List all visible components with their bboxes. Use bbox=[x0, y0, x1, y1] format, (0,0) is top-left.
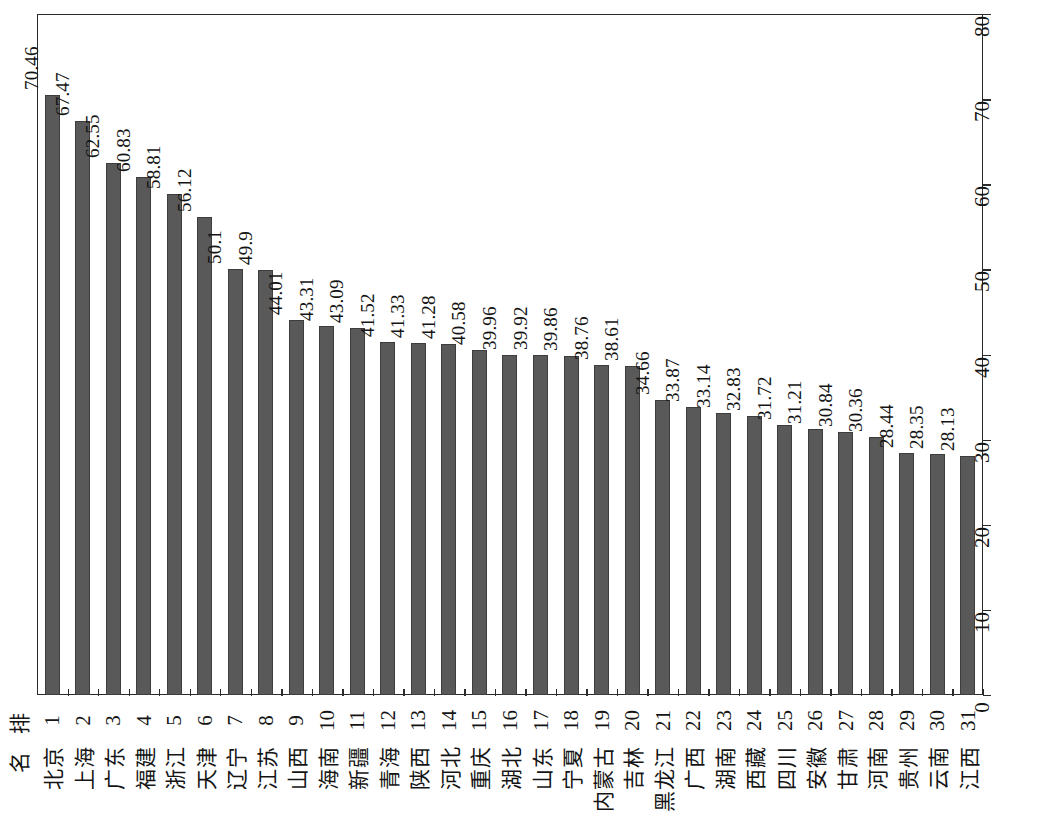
category-name-label: 广西 bbox=[678, 746, 708, 790]
bar[interactable] bbox=[655, 400, 670, 695]
bar[interactable] bbox=[686, 407, 701, 695]
bar-group: 32.83 bbox=[739, 14, 770, 695]
category-tick-group: 13陕西 bbox=[403, 700, 434, 814]
bar[interactable] bbox=[899, 453, 914, 695]
category-name-label: 浙江 bbox=[159, 746, 189, 790]
category-name-label: 甘肃 bbox=[831, 746, 861, 790]
bar-value-label: 60.83 bbox=[113, 128, 135, 172]
category-name-label: 贵州 bbox=[892, 746, 922, 790]
bar-group: 40.58 bbox=[464, 14, 495, 695]
category-rank-label: 12 bbox=[375, 710, 400, 731]
category-name-label: 青海 bbox=[373, 746, 403, 790]
bar[interactable] bbox=[716, 413, 731, 695]
bar-group: 70.46 bbox=[37, 14, 68, 695]
bar[interactable] bbox=[136, 177, 151, 695]
bar-value-label: 34.66 bbox=[632, 351, 654, 395]
bar[interactable] bbox=[594, 365, 609, 695]
category-rank-label: 16 bbox=[497, 710, 522, 731]
category-tick-group: 6天津 bbox=[190, 700, 221, 814]
bar-value-label: 58.81 bbox=[143, 146, 165, 190]
bar[interactable] bbox=[289, 320, 304, 695]
category-rank-label: 19 bbox=[589, 710, 614, 731]
bar[interactable] bbox=[106, 163, 121, 695]
bar[interactable] bbox=[167, 194, 182, 695]
category-tick-group: 22广西 bbox=[678, 700, 709, 814]
axis-header-name-char: 名 bbox=[3, 752, 33, 773]
bar[interactable] bbox=[380, 342, 395, 695]
bar[interactable] bbox=[869, 437, 884, 695]
category-rank-label: 29 bbox=[894, 710, 919, 731]
category-tick-group: 12青海 bbox=[373, 700, 404, 814]
bar-value-label: 40.58 bbox=[448, 301, 470, 345]
bar[interactable] bbox=[350, 328, 365, 695]
bar-group: 56.12 bbox=[190, 14, 221, 695]
chart-figure: 70.4667.4762.5560.8358.8156.1250.149.944… bbox=[0, 0, 1058, 814]
bar[interactable] bbox=[197, 217, 212, 695]
category-name-label: 重庆 bbox=[464, 746, 494, 790]
bar-group: 33.14 bbox=[708, 14, 739, 695]
bar-value-label: 43.31 bbox=[296, 278, 318, 322]
category-rank-label: 4 bbox=[131, 715, 156, 726]
category-rank-label: 25 bbox=[772, 710, 797, 731]
bar-value-label: 41.52 bbox=[357, 293, 379, 337]
y-axis-tick-label: 20 bbox=[970, 527, 995, 548]
category-name-label: 海南 bbox=[312, 746, 342, 790]
bar[interactable] bbox=[228, 269, 243, 695]
category-tick-group: 17山东 bbox=[525, 700, 556, 814]
category-rank-label: 27 bbox=[833, 710, 858, 731]
bar[interactable] bbox=[747, 416, 762, 695]
category-tick-group: 8江苏 bbox=[251, 700, 282, 814]
category-rank-label: 2 bbox=[70, 715, 95, 726]
category-rank-label: 8 bbox=[253, 715, 278, 726]
bar[interactable] bbox=[533, 355, 548, 695]
category-rank-label: 5 bbox=[162, 715, 187, 726]
bar[interactable] bbox=[564, 356, 579, 695]
category-rank-label: 7 bbox=[223, 715, 248, 726]
bar-group: 44.01 bbox=[281, 14, 312, 695]
y-axis-tick-label: 10 bbox=[970, 612, 995, 633]
bar[interactable] bbox=[625, 366, 640, 695]
category-name-label: 宁夏 bbox=[556, 746, 586, 790]
bar[interactable] bbox=[808, 429, 823, 695]
axis-header-rank-char: 排 bbox=[3, 713, 33, 734]
bar-group: 41.33 bbox=[403, 14, 434, 695]
bar[interactable] bbox=[319, 326, 334, 695]
bar[interactable] bbox=[45, 95, 60, 695]
bar[interactable] bbox=[930, 454, 945, 695]
category-axis: 1北京2上海3广东4福建5浙江6天津7辽宁8江苏9山西10海南11新疆12青海1… bbox=[37, 700, 983, 814]
y-axis-tick-label: 70 bbox=[970, 101, 995, 122]
category-rank-label: 14 bbox=[436, 710, 461, 731]
bar[interactable] bbox=[258, 270, 273, 695]
category-tick-group: 26安徽 bbox=[800, 700, 831, 814]
y-axis-tick bbox=[983, 525, 991, 526]
category-rank-label: 1 bbox=[40, 715, 65, 726]
category-tick-group: 23湖南 bbox=[708, 700, 739, 814]
category-name-label: 河北 bbox=[434, 746, 464, 790]
bar[interactable] bbox=[472, 350, 487, 695]
y-axis-tick-label: 30 bbox=[970, 442, 995, 463]
bar-group: 62.55 bbox=[98, 14, 129, 695]
bar-value-label: 39.96 bbox=[479, 306, 501, 350]
bar-value-label: 30.36 bbox=[845, 388, 867, 432]
bar-group: 43.31 bbox=[312, 14, 343, 695]
bar-group: 58.81 bbox=[159, 14, 190, 695]
category-rank-label: 15 bbox=[467, 710, 492, 731]
category-rank-label: 3 bbox=[101, 715, 126, 726]
bar-group: 60.83 bbox=[129, 14, 160, 695]
bar-group: 30.36 bbox=[861, 14, 892, 695]
bar-group: 34.66 bbox=[647, 14, 678, 695]
bar[interactable] bbox=[502, 355, 517, 695]
category-name-label: 湖南 bbox=[709, 746, 739, 790]
category-name-label: 安徽 bbox=[800, 746, 830, 790]
category-name-label: 西藏 bbox=[739, 746, 769, 790]
y-axis-tick bbox=[983, 355, 991, 356]
bar[interactable] bbox=[441, 344, 456, 695]
bar-group: 39.92 bbox=[525, 14, 556, 695]
bar[interactable] bbox=[411, 343, 426, 695]
bar[interactable] bbox=[838, 432, 853, 695]
bar[interactable] bbox=[75, 121, 90, 695]
category-tick-group: 5浙江 bbox=[159, 700, 190, 814]
bar[interactable] bbox=[960, 456, 975, 695]
category-rank-label: 26 bbox=[803, 710, 828, 731]
bar[interactable] bbox=[777, 425, 792, 695]
